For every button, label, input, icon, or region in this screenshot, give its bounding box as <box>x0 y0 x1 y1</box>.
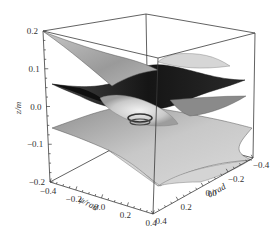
theta-axis-minor-tick <box>158 209 159 211</box>
psi-axis-tick-label: 0.2 <box>120 210 131 220</box>
theta-axis-minor-tick <box>215 177 216 179</box>
z-axis-title: z/m <box>13 101 23 115</box>
psi-axis-minor-tick <box>95 194 96 196</box>
z-axis: −0.2−0.10.00.10.2 <box>27 26 54 187</box>
psi-axis-tick-label: −0.4 <box>40 186 57 196</box>
theta-axis-major-tick <box>176 197 178 200</box>
theta-axis-major-tick <box>201 183 203 186</box>
psi-axis-minor-tick <box>134 206 135 208</box>
z-axis-tick-label: 0.0 <box>30 102 42 112</box>
theta-axis-tick-label: −0.2 <box>228 174 244 184</box>
theta-axis-title: θ/rad <box>206 181 228 200</box>
box-edge-back-top-right <box>146 14 255 33</box>
box-edge-back-top-left <box>43 14 146 31</box>
psi-axis-minor-tick <box>114 200 115 202</box>
theta-axis-minor-tick <box>196 188 197 190</box>
psi-axis-minor-tick <box>89 192 90 194</box>
psi-axis-major-tick <box>102 194 103 198</box>
psi-axis-major-tick <box>76 186 77 190</box>
theta-axis-tick-label: −0.4 <box>253 160 270 170</box>
psi-axis-minor-tick <box>63 184 64 186</box>
theta-axis-minor-tick <box>165 205 166 207</box>
box-edge-front-top-right <box>158 33 255 58</box>
theta-axis-minor-tick <box>190 191 191 193</box>
theta-axis-tick-label: 0.2 <box>180 202 191 212</box>
theta-axis-minor-tick <box>183 195 184 197</box>
z-axis-tick-label: 0.1 <box>29 64 40 74</box>
box-edge-right-vertical <box>253 33 255 158</box>
theta-axis-tick-label: 0.4 <box>155 216 167 226</box>
psi-axis-major-tick <box>127 202 128 206</box>
surface-plot-3d: −0.2−0.10.00.10.2 −0.4−0.20.00.20.4 −0.4… <box>0 0 271 237</box>
theta-axis-minor-tick <box>208 181 209 183</box>
psi-axis-minor-tick <box>82 190 83 192</box>
psi-axis-minor-tick <box>108 198 109 200</box>
z-axis-tick-label: −0.1 <box>27 139 43 149</box>
psi-axis-minor-tick <box>56 182 57 184</box>
theta-axis-minor-tick <box>171 202 172 204</box>
psi-axis-minor-tick <box>69 186 70 188</box>
psi-axis-minor-tick <box>140 208 141 210</box>
psi-axis-minor-tick <box>147 210 148 212</box>
z-axis-tick-label: 0.2 <box>27 26 38 36</box>
psi-axis-minor-tick <box>121 202 122 204</box>
